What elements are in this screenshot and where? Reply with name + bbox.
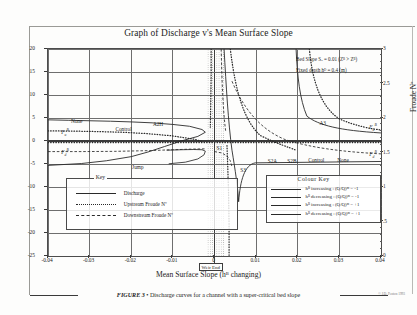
y-tick-label: -5 <box>9 160 35 166</box>
froude-tick-label: 1.5 <box>383 149 409 155</box>
y-tick-mark <box>44 117 47 118</box>
upstream-froude-left <box>48 131 202 142</box>
key-title: Key <box>94 174 107 180</box>
y-tick-label: 15 <box>9 68 35 74</box>
curve-label-a2h: A2H <box>153 121 163 127</box>
discharge-left-lower <box>48 132 205 165</box>
froude-tick-label: 2 <box>383 114 409 120</box>
froude-minor-tick <box>380 103 382 104</box>
weir-end-leader-line <box>214 255 215 263</box>
caption-text: Discharge curves for a channel with a su… <box>150 292 300 298</box>
upstream-froude-column-left <box>210 49 211 127</box>
chart-title: Graph of Discharge v's Mean Surface Slop… <box>0 28 417 38</box>
discharge-s1-loop <box>167 150 206 164</box>
froude-minor-tick <box>380 89 382 90</box>
curve-label-jump: Jump <box>132 164 143 170</box>
y-tick-label: 0 <box>9 137 35 143</box>
y-axis-label-right: Froude Nº <box>409 82 417 112</box>
key-label-upstream-froude-n-: Upstream Froude Nº <box>124 201 167 207</box>
x-tick-mark <box>171 255 172 258</box>
colour-key-row: hᴮ decreasing : (Q/Q)ᵐ = +1 <box>306 211 361 216</box>
froude-minor-tick <box>380 96 382 97</box>
froude-marker-upstream: FuB <box>369 123 376 132</box>
y-tick-mark <box>44 94 47 95</box>
curve-label-s3: S3 <box>240 167 246 173</box>
curve-label-none: None <box>337 157 348 163</box>
y-tick-mark <box>44 232 47 233</box>
x-tick-mark <box>380 255 381 258</box>
key-swatch-solid <box>76 193 116 194</box>
curve-label-control: Control <box>115 126 131 132</box>
froude-minor-tick <box>380 117 382 118</box>
figure-page: Graph of Discharge v's Mean Surface Slop… <box>0 0 417 315</box>
colour-key-row: hᴮ increasing : (Q/Q)ᵐ = +1 <box>306 202 360 207</box>
froude-minor-tick <box>380 248 382 249</box>
froude-minor-tick <box>380 234 382 235</box>
y-tick-label: 5 <box>9 114 35 120</box>
key-swatch-dotted <box>76 204 116 205</box>
curve-label-a3: A3 <box>319 120 325 126</box>
x-tick-mark <box>296 255 297 258</box>
froude-marker-upstream: FuB <box>61 128 68 137</box>
fixed-depth-note: Fixed depth hᴰ = 0.4 (m) <box>296 67 347 73</box>
x-tick-mark <box>255 255 256 258</box>
y-tick-label: -15 <box>9 206 35 212</box>
x-axis-label: Mean Surface Slope (hᴮ changing) <box>0 270 417 279</box>
y-tick-mark <box>44 186 47 187</box>
colour-key-row: hᴮ decreasing : (Q/Q)ᵐ = -1 <box>306 194 360 199</box>
colour-key-row: hᴮ increasing : (Q/Q)ᵐ = -1 <box>306 186 359 191</box>
upstream-froude-right <box>230 49 296 150</box>
downstream-froude-hook <box>215 152 232 167</box>
x-tick-mark <box>338 255 339 258</box>
y-tick-label: 20 <box>9 45 35 51</box>
key-label-discharge: Discharge <box>124 190 145 196</box>
froude-minor-tick <box>380 151 382 152</box>
y-tick-mark <box>44 163 47 164</box>
figure-number: FIGURE 3 <box>117 292 145 298</box>
caption-separator: • <box>146 292 148 298</box>
froude-minor-tick <box>380 82 382 83</box>
froude-marker-downstream: FdB <box>369 150 376 159</box>
froude-minor-tick <box>380 137 382 138</box>
key-swatch-dashed <box>76 215 116 216</box>
curve-label-none: None <box>71 118 82 124</box>
froude-minor-tick <box>380 172 382 173</box>
froude-minor-tick <box>380 227 382 228</box>
froude-minor-tick <box>380 144 382 145</box>
froude-tick-label: 1 <box>383 183 409 189</box>
bed-slope-note: Bed Slope Sₒ = 0.01 (Zᴮ > Zᴮ) <box>296 56 357 62</box>
key-label-downstream-froude-n-: Downstream Froude Nº <box>124 212 173 218</box>
y-tick-mark <box>44 71 47 72</box>
curve-label-control: Control <box>308 157 324 163</box>
x-tick-mark <box>88 255 89 258</box>
colour-key-swatch <box>271 205 301 206</box>
froude-minor-tick <box>380 75 382 76</box>
colour-key-swatch <box>271 189 301 190</box>
colour-key-swatch <box>271 197 301 198</box>
y-tick-mark <box>44 209 47 210</box>
froude-minor-tick <box>380 68 382 69</box>
froude-tick-label: 3 <box>383 45 409 51</box>
y-tick-mark <box>44 140 47 141</box>
froude-minor-tick <box>380 61 382 62</box>
colour-key-swatch <box>271 214 301 215</box>
froude-minor-tick <box>380 130 382 131</box>
y-tick-label: -10 <box>9 183 35 189</box>
froude-minor-tick <box>380 123 382 124</box>
figure-caption: FIGURE 3 • Discharge curves for a channe… <box>0 292 417 298</box>
froude-minor-tick <box>380 48 382 49</box>
page-border-right <box>412 26 413 294</box>
curve-label-s2a: S2A <box>268 158 277 164</box>
x-tick-mark <box>130 255 131 258</box>
downstream-froude-left <box>48 149 206 152</box>
froude-tick-label: .5 <box>383 218 409 224</box>
froude-tick-label: 2.5 <box>383 80 409 86</box>
copyright-note: © J.D. Fenton 1993 <box>378 292 405 296</box>
weir-end-label: Weir End <box>199 263 223 271</box>
curve-label-s2b: S2B <box>287 158 296 164</box>
y-tick-label: 10 <box>9 91 35 97</box>
froude-marker-downstream: FdB <box>61 148 68 157</box>
froude-minor-tick <box>380 54 382 55</box>
froude-minor-tick <box>380 158 382 159</box>
froude-minor-tick <box>380 165 382 166</box>
